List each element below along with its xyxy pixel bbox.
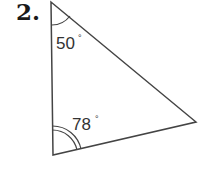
angle-arc-top [51, 16, 70, 25]
angle-label-bottom-left: 78 [72, 115, 91, 134]
triangle-diagram: 50 ° 78 ° [0, 0, 209, 171]
degree-symbol-bottom-left: ° [95, 114, 99, 124]
degree-symbol-top: ° [78, 33, 82, 43]
angle-label-top: 50 [56, 34, 75, 53]
